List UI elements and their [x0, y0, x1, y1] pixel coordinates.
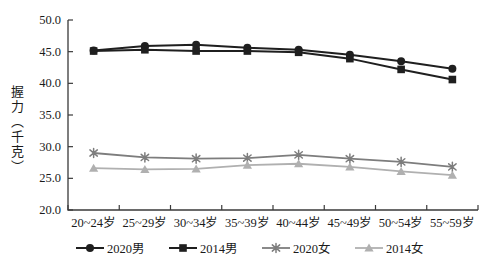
legend-star-icon [262, 242, 290, 254]
x-tick-label: 25~29岁 [122, 215, 167, 230]
x-tick-label: 35~39岁 [225, 215, 270, 230]
plot-area: 20.025.030.035.040.045.050.020~24岁25~29岁… [0, 0, 500, 273]
y-tick-label: 45.0 [39, 45, 61, 59]
marker-male-2014 [449, 76, 457, 84]
y-tick-label: 30.0 [39, 140, 61, 154]
x-tick-label: 45~49岁 [327, 215, 372, 230]
legend-label-male-2020: 2020男 [107, 238, 145, 257]
legend-marker-male-2020 [86, 244, 94, 252]
x-tick-label: 55~59岁 [430, 215, 475, 230]
marker-male-2020 [397, 57, 405, 65]
y-tick-label: 25.0 [39, 171, 61, 185]
marker-male-2014 [141, 46, 149, 54]
legend-square-icon [169, 242, 197, 254]
legend-marker-male-2014 [179, 244, 187, 252]
x-tick-label: 50~54岁 [379, 215, 424, 230]
legend-item-female-2020: 2020女 [262, 238, 331, 257]
marker-male-2014 [397, 66, 405, 74]
marker-male-2014 [295, 49, 303, 57]
legend-circle-icon [76, 242, 104, 254]
y-tick-label: 50.0 [39, 13, 61, 27]
grip-strength-chart: 握力（千克） 20.025.030.035.040.045.050.020~24… [0, 0, 500, 273]
marker-male-2020 [448, 65, 456, 73]
x-tick-label: 20~24岁 [71, 215, 116, 230]
legend-label-female-2014: 2014女 [386, 238, 424, 257]
marker-male-2014 [192, 47, 200, 55]
x-tick-label: 30~34岁 [174, 215, 219, 230]
legend-item-male-2014: 2014男 [169, 238, 238, 257]
legend: 2020男2014男2020女2014女 [0, 238, 500, 257]
marker-male-2014 [244, 47, 252, 55]
y-tick-label: 35.0 [39, 108, 61, 122]
legend-label-female-2020: 2020女 [293, 238, 331, 257]
y-tick-label: 20.0 [39, 203, 61, 217]
legend-item-male-2020: 2020男 [76, 238, 145, 257]
marker-male-2014 [90, 47, 98, 55]
legend-label-male-2014: 2014男 [200, 238, 238, 257]
marker-male-2014 [346, 55, 354, 63]
series-line-male-2014 [94, 50, 453, 80]
legend-item-female-2014: 2014女 [355, 238, 424, 257]
x-tick-label: 40~44岁 [276, 215, 321, 230]
y-tick-label: 40.0 [39, 76, 61, 90]
legend-triangle-icon [355, 242, 383, 254]
